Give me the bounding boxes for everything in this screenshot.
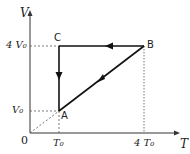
x-tick-t0: T₀ <box>53 138 64 148</box>
y-tick-4v0: 4 V₀ <box>6 40 27 50</box>
vt-diagram <box>0 0 190 154</box>
x-tick-4t0: 4 T₀ <box>134 138 154 148</box>
arrow-bc-icon <box>105 43 113 50</box>
point-c-label: C <box>54 33 61 43</box>
point-a-label: A <box>61 111 68 121</box>
origin-label: 0 <box>21 135 28 146</box>
arrow-ca-icon <box>56 72 63 80</box>
guide-origin-line <box>30 111 59 133</box>
t-axis-label: T <box>180 138 188 150</box>
y-tick-v0: V₀ <box>12 105 23 115</box>
point-b-label: B <box>147 40 154 50</box>
v-axis-label: V <box>20 7 29 19</box>
t-axis-arrow-icon <box>174 131 180 136</box>
arrow-ab-icon <box>97 74 105 83</box>
